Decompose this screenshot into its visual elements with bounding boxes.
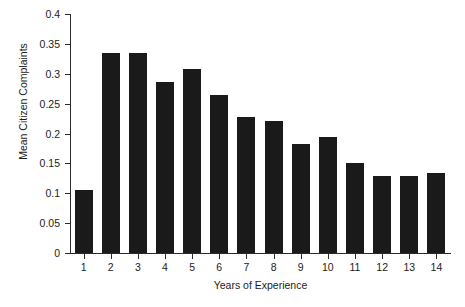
bar: [237, 117, 255, 253]
x-tick-mark: [409, 254, 410, 259]
x-tick-label: 5: [178, 262, 206, 273]
x-tick-label: 3: [124, 262, 152, 273]
x-tick-mark: [192, 254, 193, 259]
x-tick-label: 2: [97, 262, 125, 273]
x-tick-mark: [382, 254, 383, 259]
bar: [102, 53, 120, 253]
x-tick-mark: [165, 254, 166, 259]
bar: [346, 163, 364, 253]
x-tick-label: 14: [422, 262, 450, 273]
x-tick-label: 12: [368, 262, 396, 273]
x-tick-mark: [84, 254, 85, 259]
bar: [292, 144, 310, 253]
x-tick-mark: [301, 254, 302, 259]
bar: [75, 190, 93, 253]
y-tick-label: 0.1: [12, 188, 60, 199]
x-axis-title: Years of Experience: [70, 280, 451, 291]
bar: [265, 121, 283, 253]
x-tick-mark: [355, 254, 356, 259]
y-tick-label: 0.05: [12, 218, 60, 229]
x-tick-mark: [138, 254, 139, 259]
x-tick-label: 7: [232, 262, 260, 273]
x-tick-mark: [246, 254, 247, 259]
bar: [427, 173, 445, 253]
bar-chart-figure: 00.050.10.150.20.250.30.350.4 1234567891…: [0, 0, 465, 307]
x-tick-mark: [436, 254, 437, 259]
x-tick-label: 11: [341, 262, 369, 273]
x-tick-label: 10: [314, 262, 342, 273]
bar: [129, 53, 147, 253]
x-tick-mark: [274, 254, 275, 259]
x-tick-mark: [219, 254, 220, 259]
x-tick-mark: [111, 254, 112, 259]
bar: [210, 95, 228, 253]
x-tick-label: 13: [395, 262, 423, 273]
x-tick-mark: [328, 254, 329, 259]
bar: [400, 176, 418, 253]
y-tick-mark: [65, 253, 70, 254]
plot-area: [70, 14, 450, 253]
bar: [183, 69, 201, 253]
x-tick-label: 6: [205, 262, 233, 273]
x-tick-label: 4: [151, 262, 179, 273]
y-tick-label: 0: [12, 248, 60, 259]
bar: [319, 137, 337, 253]
x-tick-label: 8: [260, 262, 288, 273]
bar: [373, 176, 391, 253]
x-axis-line: [70, 253, 451, 254]
bar: [156, 82, 174, 253]
y-axis-title: Mean Citizen Complaints: [18, 17, 29, 187]
x-tick-label: 9: [287, 262, 315, 273]
x-tick-label: 1: [70, 262, 98, 273]
